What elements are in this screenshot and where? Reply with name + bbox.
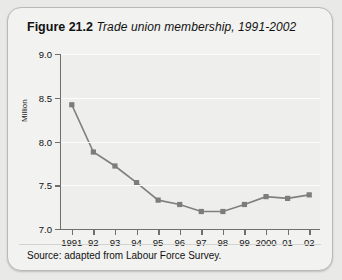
data-point-marker [112, 163, 117, 168]
x-axis-tick-label: 94 [131, 237, 142, 248]
y-axis-tick-label: 8.0 [39, 136, 52, 147]
gridline [61, 98, 320, 99]
x-axis-tick-label: 92 [88, 237, 99, 248]
x-axis-tick-label: 93 [110, 237, 121, 248]
x-axis-tick-label: 95 [153, 237, 164, 248]
source-note: Source: adapted from Labour Force Survey… [27, 250, 221, 261]
figure-number: Figure 21.2 [27, 20, 93, 34]
x-axis-tick [288, 229, 289, 235]
figure-title: Figure 21.2 Trade union membership, 1991… [27, 20, 296, 34]
x-axis-tick-label: 1991 [61, 237, 82, 248]
data-point-marker [69, 102, 74, 107]
figure-caption: Trade union membership, 1991-2002 [96, 20, 296, 34]
data-point-marker [307, 192, 312, 197]
x-axis-tick-label: 96 [174, 237, 185, 248]
x-axis-tick [93, 229, 94, 235]
data-point-marker [242, 202, 247, 207]
data-point-marker [263, 194, 268, 199]
y-axis-tick [55, 142, 61, 143]
x-axis-tick [137, 229, 138, 235]
x-axis-tick [244, 229, 245, 235]
x-axis-tick [309, 229, 310, 235]
gridline [61, 54, 320, 55]
y-axis-tick [55, 54, 61, 55]
y-axis-label: Million [20, 99, 29, 122]
data-point-marker [285, 196, 290, 201]
x-axis-tick-label: 02 [304, 237, 315, 248]
y-axis-tick-label: 7.0 [39, 224, 52, 235]
gridline [61, 185, 320, 186]
data-point-marker [220, 209, 225, 214]
figure-card: Figure 21.2 Trade union membership, 1991… [7, 7, 333, 271]
y-axis-tick-label: 7.5 [39, 180, 52, 191]
data-point-marker [156, 198, 161, 203]
x-axis-tick [115, 229, 116, 235]
x-axis-tick [158, 229, 159, 235]
x-axis-tick [266, 229, 267, 235]
plot-region: 9.08.58.07.57.01991929394959697989920000… [60, 54, 320, 230]
y-axis-tick [55, 229, 61, 230]
x-axis-tick [72, 229, 73, 235]
series-line [72, 105, 309, 212]
x-axis-tick-label: 97 [196, 237, 207, 248]
footer-divider [19, 244, 321, 245]
gridline [61, 142, 320, 143]
y-axis-tick-label: 9.0 [39, 49, 52, 60]
x-axis-tick-label: 01 [282, 237, 293, 248]
data-point-marker [199, 209, 204, 214]
y-axis-tick-label: 8.5 [39, 92, 52, 103]
x-axis-tick-label: 98 [218, 237, 229, 248]
y-axis-tick [55, 98, 61, 99]
x-axis-tick [223, 229, 224, 235]
x-axis-tick [201, 229, 202, 235]
x-axis-tick-label: 99 [239, 237, 250, 248]
chart-area: Million 9.08.58.07.57.019919293949596979… [22, 44, 322, 240]
x-axis-tick [180, 229, 181, 235]
data-point-marker [91, 149, 96, 154]
x-axis-tick-label: 2000 [255, 237, 276, 248]
y-axis-tick [55, 185, 61, 186]
data-point-marker [177, 202, 182, 207]
